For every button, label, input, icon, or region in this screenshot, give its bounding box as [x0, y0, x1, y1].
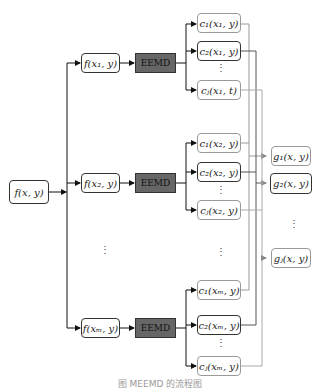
- ellipsis: ⋮: [216, 250, 222, 254]
- component-node: cⱼ(xₘ, y): [197, 356, 241, 376]
- output-node: gⱼ(x, y): [271, 248, 311, 268]
- component-node: c₂(x₂, y): [197, 162, 241, 182]
- eemd-block-m: EEMD: [135, 318, 176, 338]
- ellipsis: ⋮: [216, 341, 222, 345]
- component-node: c₁(xₘ, y): [197, 280, 241, 300]
- ellipsis: ⋮: [100, 248, 106, 252]
- output-node: g₁(x, y): [271, 146, 311, 166]
- slice-node-1: f(x₁, y): [81, 53, 120, 73]
- component-node: c₁(x₂, y): [197, 133, 241, 153]
- component-node: c₁(x₁, y): [197, 13, 241, 33]
- output-node: g₂(x, y): [270, 173, 312, 194]
- component-node: c₂(x₁, y): [197, 41, 241, 61]
- ellipsis: ⋮: [289, 222, 295, 226]
- eemd-block-2: EEMD: [135, 173, 176, 193]
- input-node: f(x, y): [9, 180, 49, 204]
- component-node: cⱼ(x₁, t): [197, 80, 241, 100]
- component-node: c₂(xₘ, y): [197, 315, 241, 335]
- figure-caption: 图 MEEMD 的流程图: [60, 377, 260, 390]
- slice-node-m: f(xₘ, y): [81, 318, 120, 338]
- ellipsis: ⋮: [216, 188, 222, 192]
- ellipsis: ⋮: [216, 66, 222, 70]
- eemd-block-1: EEMD: [135, 53, 176, 73]
- component-node: cⱼ(x₂, y): [197, 200, 241, 220]
- slice-node-2: f(x₂, y): [81, 173, 120, 193]
